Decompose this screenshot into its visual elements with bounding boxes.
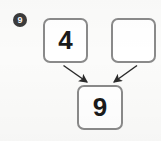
arrow-addend-2-to-sum	[114, 66, 137, 83]
arrows-layer	[0, 0, 161, 141]
arrow-addend-1-to-sum	[64, 66, 88, 83]
worksheet-problem: 9 4 9	[0, 0, 161, 141]
